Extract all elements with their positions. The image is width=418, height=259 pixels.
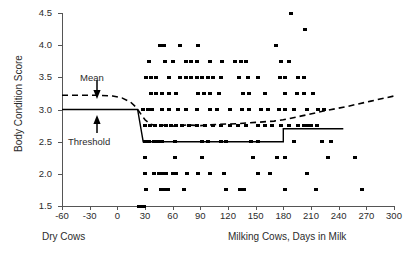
scatter-point bbox=[200, 140, 204, 143]
scatter-point bbox=[195, 60, 199, 63]
scatter-point bbox=[167, 92, 171, 95]
scatter-point bbox=[152, 172, 156, 175]
scatter-point bbox=[164, 124, 168, 127]
scatter-point bbox=[174, 172, 178, 175]
scatter-point bbox=[144, 188, 148, 191]
scatter-point bbox=[141, 108, 145, 111]
scatter-point bbox=[153, 124, 157, 127]
scatter-point bbox=[224, 140, 228, 143]
scatter-point bbox=[329, 140, 333, 143]
scatter-point bbox=[178, 44, 182, 47]
scatter-point bbox=[283, 92, 287, 95]
scatter-point bbox=[228, 124, 232, 127]
scatter-point bbox=[142, 205, 146, 208]
scatter-point bbox=[169, 124, 173, 127]
scatter-point bbox=[154, 76, 158, 79]
scatter-point bbox=[270, 124, 274, 127]
scatter-point bbox=[195, 108, 199, 111]
scatter-point bbox=[246, 76, 250, 79]
scatter-point bbox=[228, 108, 232, 111]
scatter-point bbox=[302, 76, 306, 79]
scatter-point bbox=[283, 108, 287, 111]
scatter-point bbox=[187, 124, 191, 127]
scatter-point bbox=[244, 124, 248, 127]
scatter-point bbox=[159, 124, 163, 127]
scatter-point bbox=[195, 76, 199, 79]
scatter-point bbox=[185, 172, 189, 175]
scatter-point bbox=[206, 76, 210, 79]
scatter-point bbox=[143, 172, 147, 175]
scatter-point bbox=[302, 92, 306, 95]
plot-lines-layer bbox=[0, 0, 418, 259]
scatter-point bbox=[220, 60, 224, 63]
scatter-point bbox=[292, 108, 296, 111]
scatter-point bbox=[287, 124, 291, 127]
scatter-point bbox=[275, 156, 279, 159]
scatter-point bbox=[292, 140, 296, 143]
scatter-point bbox=[283, 188, 287, 191]
scatter-point bbox=[146, 108, 150, 111]
scatter-point bbox=[320, 140, 324, 143]
scatter-point bbox=[247, 92, 251, 95]
scatter-point bbox=[224, 188, 228, 191]
scatter-point bbox=[174, 124, 178, 127]
scatter-point bbox=[166, 188, 170, 191]
scatter-point bbox=[237, 76, 241, 79]
scatter-point bbox=[148, 124, 152, 127]
mean-annotation-label: Mean bbox=[80, 72, 104, 83]
scatter-point bbox=[219, 124, 223, 127]
scatter-point bbox=[149, 76, 153, 79]
scatter-point bbox=[184, 60, 188, 63]
scatter-point bbox=[256, 140, 260, 143]
scatter-point bbox=[182, 188, 186, 191]
scatter-point bbox=[315, 124, 319, 127]
scatter-point bbox=[263, 92, 267, 95]
scatter-point bbox=[263, 124, 267, 127]
scatter-point bbox=[242, 188, 246, 191]
scatter-point bbox=[150, 108, 154, 111]
scatter-point bbox=[360, 188, 364, 191]
scatter-point bbox=[295, 92, 299, 95]
scatter-point bbox=[202, 92, 206, 95]
scatter-point bbox=[353, 156, 357, 159]
scatter-point bbox=[268, 172, 272, 175]
scatter-point bbox=[309, 124, 313, 127]
scatter-point bbox=[184, 76, 188, 79]
scatter-point bbox=[215, 108, 219, 111]
scatter-point bbox=[259, 108, 263, 111]
scatter-point bbox=[160, 108, 164, 111]
scatter-point bbox=[251, 156, 255, 159]
scatter-point bbox=[296, 124, 300, 127]
scatter-point bbox=[144, 76, 148, 79]
scatter-point bbox=[163, 60, 167, 63]
scatter-point bbox=[149, 92, 153, 95]
scatter-point bbox=[143, 124, 147, 127]
scatter-point bbox=[160, 140, 164, 143]
scatter-point bbox=[180, 124, 184, 127]
chart-figure: 1.52.02.53.03.54.04.5 -60-30030609012015… bbox=[0, 0, 418, 259]
scatter-point bbox=[303, 28, 307, 31]
scatter-point bbox=[247, 108, 251, 111]
scatter-point bbox=[239, 60, 243, 63]
scatter-point bbox=[289, 12, 293, 15]
scatter-point bbox=[154, 92, 158, 95]
scatter-point bbox=[236, 124, 240, 127]
scatter-point bbox=[167, 76, 171, 79]
scatter-point bbox=[173, 140, 177, 143]
scatter-point bbox=[162, 44, 166, 47]
scatter-point bbox=[211, 124, 215, 127]
scatter-point bbox=[160, 92, 164, 95]
scatter-point bbox=[208, 172, 212, 175]
scatter-point bbox=[211, 76, 215, 79]
scatter-point bbox=[277, 108, 281, 111]
scatter-point bbox=[203, 124, 207, 127]
scatter-point bbox=[196, 44, 200, 47]
scatter-point bbox=[233, 60, 237, 63]
scatter-point bbox=[314, 188, 318, 191]
scatter-point bbox=[167, 108, 171, 111]
scatter-point bbox=[178, 76, 182, 79]
scatter-point bbox=[278, 76, 282, 79]
scatter-point bbox=[274, 44, 278, 47]
scatter-point bbox=[206, 140, 210, 143]
scatter-point bbox=[222, 172, 226, 175]
